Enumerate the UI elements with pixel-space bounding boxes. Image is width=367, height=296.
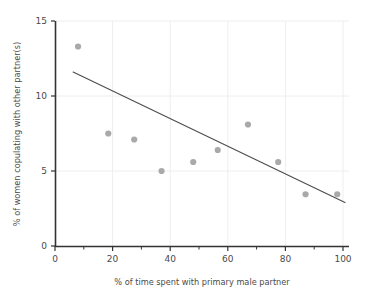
x-axis-title: % of time spent with primary male partne… (114, 277, 290, 287)
scatter-plot-figure: 051015 020406080100 % of time spent with… (0, 0, 367, 296)
data-point (275, 159, 281, 165)
y-tick-label: 5 (41, 166, 47, 176)
x-tick-label: 60 (222, 254, 234, 264)
data-point (105, 130, 111, 136)
data-point (131, 136, 137, 142)
data-point (158, 168, 164, 174)
y-tick-label: 15 (36, 16, 47, 26)
y-tick-label: 10 (36, 91, 48, 101)
x-tick-label: 80 (280, 254, 292, 264)
plot-canvas: 051015 020406080100 % of time spent with… (0, 0, 367, 296)
data-point (245, 121, 251, 127)
data-point (334, 191, 340, 197)
x-tick-label: 40 (164, 254, 176, 264)
x-tick-label: 100 (334, 254, 351, 264)
data-point (302, 191, 308, 197)
data-point (75, 43, 81, 49)
y-axis-title: % of women copulating with other partner… (12, 42, 22, 226)
x-tick-label: 0 (52, 254, 58, 264)
data-point (215, 147, 221, 153)
x-tick-label: 20 (107, 254, 119, 264)
data-point (190, 159, 196, 165)
y-tick-label: 0 (41, 241, 47, 251)
